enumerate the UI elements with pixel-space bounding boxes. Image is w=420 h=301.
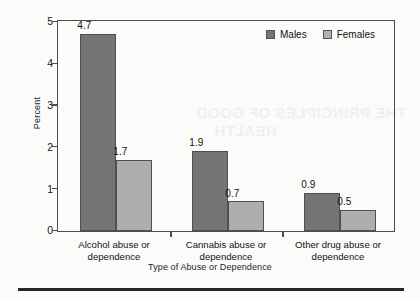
- chart-legend: Males Females: [266, 29, 375, 40]
- x-category-label-alcohol: Alcohol abuse or dependence: [58, 239, 170, 263]
- bar-males-alcohol: [80, 34, 116, 231]
- y-tick-label-5: 5: [31, 15, 53, 27]
- x-category-label-other-drug: Other drug abuse or dependence: [282, 239, 394, 263]
- legend-item-females: Females: [323, 29, 375, 40]
- females-swatch-icon: [323, 30, 332, 39]
- page-bottom-rule: [18, 288, 404, 291]
- y-tick-label-3: 3: [31, 99, 53, 111]
- males-swatch-icon: [266, 30, 275, 39]
- bar-females-alcohol: [116, 160, 152, 231]
- x-tick-mark-1: [170, 232, 171, 237]
- y-tick-label-1: 1: [31, 183, 53, 195]
- y-tick-label-2: 2: [31, 141, 53, 153]
- bar-value-females-cannabis: 0.7: [214, 188, 250, 199]
- y-tick-label-4: 4: [31, 57, 53, 69]
- legend-label-females: Females: [337, 29, 375, 40]
- bar-value-females-other-drug: 0.5: [326, 196, 362, 207]
- x-category-label-cannabis: Cannabis abuse or dependence: [170, 239, 282, 263]
- y-tick-label-0: 0: [31, 224, 53, 236]
- bar-chart-figure: THE PRINCIPLES OF GOOD HEALTH Percent 5 …: [0, 0, 420, 301]
- bar-value-females-alcohol: 1.7: [102, 146, 138, 157]
- x-tick-mark-2: [282, 232, 283, 237]
- bar-value-males-alcohol: 4.7: [66, 20, 102, 31]
- bar-females-other-drug: [340, 210, 376, 231]
- legend-item-males: Males: [266, 29, 307, 40]
- legend-label-males: Males: [280, 29, 307, 40]
- bar-value-males-cannabis: 1.9: [178, 137, 214, 148]
- x-axis-title: Type of Abuse or Dependence: [0, 262, 420, 272]
- bar-value-males-other-drug: 0.9: [290, 179, 326, 190]
- bar-females-cannabis: [228, 201, 264, 230]
